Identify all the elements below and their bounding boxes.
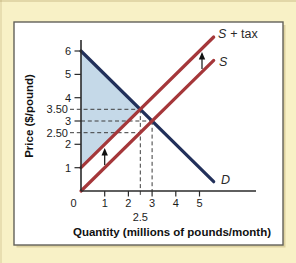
y-tick-label-4: 4 bbox=[65, 92, 71, 104]
supply-label: S bbox=[219, 55, 228, 69]
x-tick-label-1: 1 bbox=[102, 197, 108, 209]
y-axis-title: Price ($/pound) bbox=[23, 74, 35, 158]
x-tick-label-0: 0 bbox=[70, 197, 76, 209]
supply-demand-tax-chart: 6 5 4 3 2 1 3.50 2.50 0 1 2 3 4 5 2.5 Qu… bbox=[0, 0, 296, 263]
supply-plus-tax-label: S+ tax bbox=[218, 27, 259, 41]
supply-plus-tax-label-rest: + tax bbox=[230, 27, 258, 41]
x-tick-label-2: 2 bbox=[125, 197, 131, 209]
y-tick-label-3-50: 3.50 bbox=[47, 103, 68, 115]
y-tick-label-6: 6 bbox=[65, 45, 71, 57]
supply-plus-tax-label-var: S bbox=[218, 27, 227, 41]
demand-label: D bbox=[221, 173, 230, 187]
x-tick-label-4: 4 bbox=[173, 197, 179, 209]
x-tick-label-2-5: 2.5 bbox=[133, 211, 148, 223]
y-tick-label-2: 2 bbox=[65, 138, 71, 150]
y-tick-label-2-50: 2.50 bbox=[47, 127, 68, 139]
x-tick-label-5: 5 bbox=[196, 197, 202, 209]
y-tick-label-3: 3 bbox=[65, 115, 71, 127]
y-tick-label-5: 5 bbox=[65, 68, 71, 80]
x-axis-title: Quantity (millions of pounds/month) bbox=[73, 226, 271, 238]
x-tick-label-3: 3 bbox=[149, 197, 155, 209]
y-tick-label-1: 1 bbox=[65, 162, 71, 174]
